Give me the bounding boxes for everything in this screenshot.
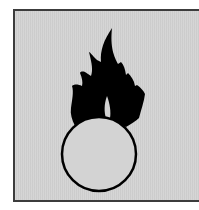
flame-over-circle-pictogram [13,9,199,202]
flame-over-circle-icon [0,0,199,210]
